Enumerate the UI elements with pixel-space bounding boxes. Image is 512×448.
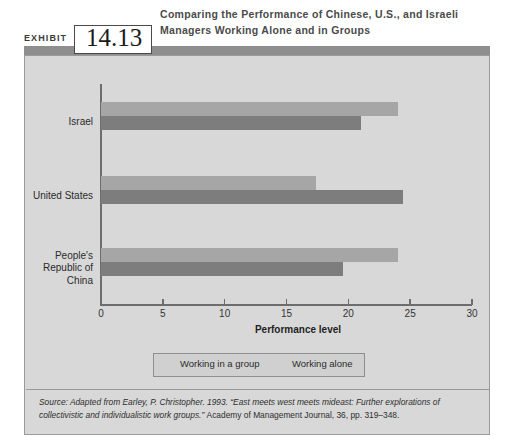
x-axis-tick bbox=[286, 299, 288, 305]
legend-swatch-group bbox=[164, 358, 175, 369]
x-axis-tick-label: 5 bbox=[160, 308, 166, 319]
x-axis-tick-label: 30 bbox=[466, 308, 477, 319]
x-axis-label: Performance level bbox=[25, 324, 491, 335]
chart-legend: Working in a group Working alone bbox=[153, 353, 365, 377]
exhibit-page: EXHIBIT 14.13 Comparing the Performance … bbox=[0, 0, 512, 448]
exhibit-title: Comparing the Performance of Chinese, U.… bbox=[160, 6, 500, 38]
exhibit-label: EXHIBIT bbox=[24, 33, 67, 43]
legend-swatch-alone bbox=[276, 358, 287, 369]
x-axis-tick-label: 10 bbox=[219, 308, 230, 319]
chart-plot-area: Performance level 051015202530IsraelUnit… bbox=[25, 56, 491, 436]
x-axis-tick bbox=[409, 299, 411, 305]
category-label: United States bbox=[33, 190, 93, 203]
x-axis-tick bbox=[224, 299, 226, 305]
x-axis-tick bbox=[471, 299, 473, 305]
x-axis-tick bbox=[162, 299, 164, 305]
category-label: People's Republic of China bbox=[43, 250, 93, 288]
bar-working-alone bbox=[101, 262, 343, 276]
chart-panel: Performance level 051015202530IsraelUnit… bbox=[24, 55, 490, 435]
x-axis-tick-label: 15 bbox=[281, 308, 292, 319]
exhibit-number-box: 14.13 bbox=[74, 25, 152, 54]
legend-label-group: Working in a group bbox=[180, 358, 260, 369]
category-label: Israel bbox=[69, 116, 93, 129]
source-note-roman: Academy of Management Journal, 36, pp. 3… bbox=[207, 410, 400, 420]
legend-item-working-in-a-group: Working in a group bbox=[164, 358, 260, 369]
source-divider bbox=[26, 389, 490, 390]
x-axis-tick-label: 25 bbox=[405, 308, 416, 319]
bar-working-alone bbox=[101, 116, 361, 130]
exhibit-number: 14.13 bbox=[75, 24, 153, 52]
source-note: Source: Adapted from Earley, P. Christop… bbox=[39, 396, 479, 421]
bar-working-in-a-group bbox=[101, 102, 398, 116]
x-axis-tick bbox=[348, 299, 350, 305]
bar-working-in-a-group bbox=[101, 248, 398, 262]
x-axis-tick bbox=[100, 299, 102, 305]
bar-working-in-a-group bbox=[101, 176, 316, 190]
legend-label-alone: Working alone bbox=[292, 358, 353, 369]
x-axis-tick-label: 0 bbox=[98, 308, 104, 319]
bar-working-alone bbox=[101, 190, 403, 204]
legend-item-working-alone: Working alone bbox=[276, 358, 353, 369]
x-axis-tick-label: 20 bbox=[343, 308, 354, 319]
exhibit-header: EXHIBIT 14.13 Comparing the Performance … bbox=[0, 0, 512, 58]
